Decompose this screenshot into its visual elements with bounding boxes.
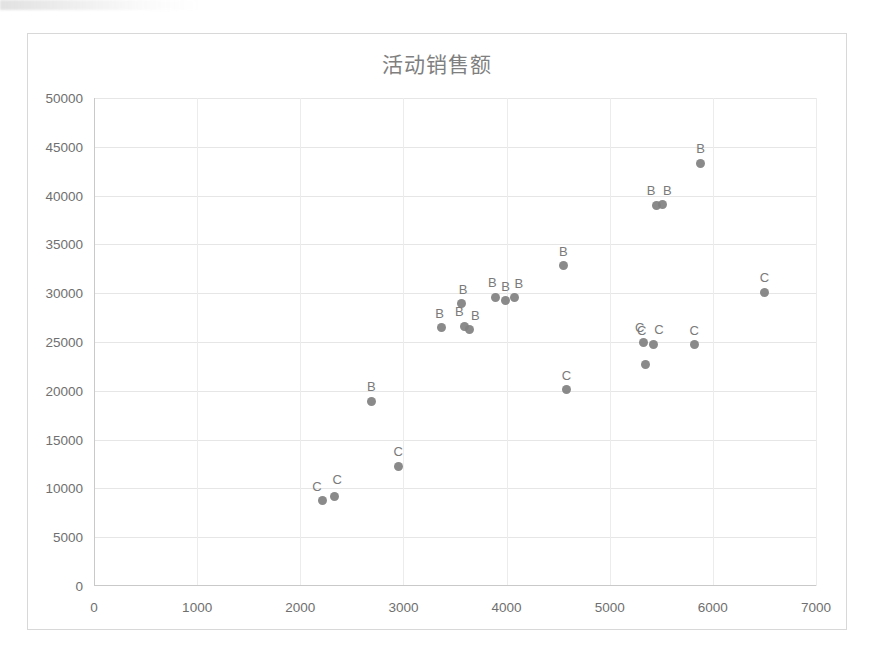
gridline-vertical xyxy=(610,98,611,586)
y-axis-tick-label: 35000 xyxy=(45,237,94,252)
gridline-horizontal xyxy=(94,537,816,538)
x-axis-tick-label: 6000 xyxy=(698,600,728,615)
y-axis-tick-label: 10000 xyxy=(45,481,94,496)
scatter-point[interactable] xyxy=(330,492,339,501)
x-axis-tick-label: 7000 xyxy=(801,600,831,615)
gridline-vertical xyxy=(816,98,817,586)
scatter-point[interactable] xyxy=(696,159,705,168)
gridline-horizontal xyxy=(94,342,816,343)
gridline-horizontal xyxy=(94,147,816,148)
y-axis-tick-label: 45000 xyxy=(45,139,94,154)
scatter-point[interactable] xyxy=(501,296,510,305)
gridline-horizontal xyxy=(94,244,816,245)
gridline-horizontal xyxy=(94,98,816,99)
x-axis-tick-label: 5000 xyxy=(595,600,625,615)
scan-artifact xyxy=(0,0,200,10)
y-axis-tick-label: 0 xyxy=(75,579,94,594)
y-axis-tick-label: 20000 xyxy=(45,383,94,398)
gridline-horizontal xyxy=(94,440,816,441)
scatter-point[interactable] xyxy=(491,293,500,302)
y-axis-tick-label: 25000 xyxy=(45,335,94,350)
y-axis-line xyxy=(94,98,95,586)
scatter-point[interactable] xyxy=(760,288,769,297)
scatter-point[interactable] xyxy=(394,462,403,471)
gridline-vertical xyxy=(403,98,404,586)
gridline-horizontal xyxy=(94,293,816,294)
scatter-point[interactable] xyxy=(639,338,648,347)
plot-area[interactable]: 0500010000150002000025000300003500040000… xyxy=(94,98,816,586)
x-axis-tick-label: 1000 xyxy=(182,600,212,615)
gridline-vertical xyxy=(197,98,198,586)
x-axis-tick-label: 3000 xyxy=(388,600,418,615)
y-axis-tick-label: 30000 xyxy=(45,286,94,301)
x-axis-tick-label: 2000 xyxy=(285,600,315,615)
gridline-horizontal xyxy=(94,196,816,197)
chart-title: 活动销售额 xyxy=(28,48,846,78)
y-axis-tick-label: 50000 xyxy=(45,91,94,106)
x-axis-tick-label: 4000 xyxy=(492,600,522,615)
gridline-vertical xyxy=(507,98,508,586)
scatter-point[interactable] xyxy=(367,397,376,406)
scatter-point[interactable] xyxy=(649,340,658,349)
gridline-vertical xyxy=(713,98,714,586)
y-axis-tick-label: 5000 xyxy=(53,530,94,545)
x-axis-line xyxy=(94,585,816,586)
chart-container[interactable]: 活动销售额 0500010000150002000025000300003500… xyxy=(27,33,847,630)
gridline-vertical xyxy=(300,98,301,586)
gridline-horizontal xyxy=(94,488,816,489)
y-axis-tick-label: 15000 xyxy=(45,432,94,447)
y-axis-tick-label: 40000 xyxy=(45,188,94,203)
gridline-horizontal xyxy=(94,391,816,392)
x-axis-tick-label: 0 xyxy=(90,600,98,615)
